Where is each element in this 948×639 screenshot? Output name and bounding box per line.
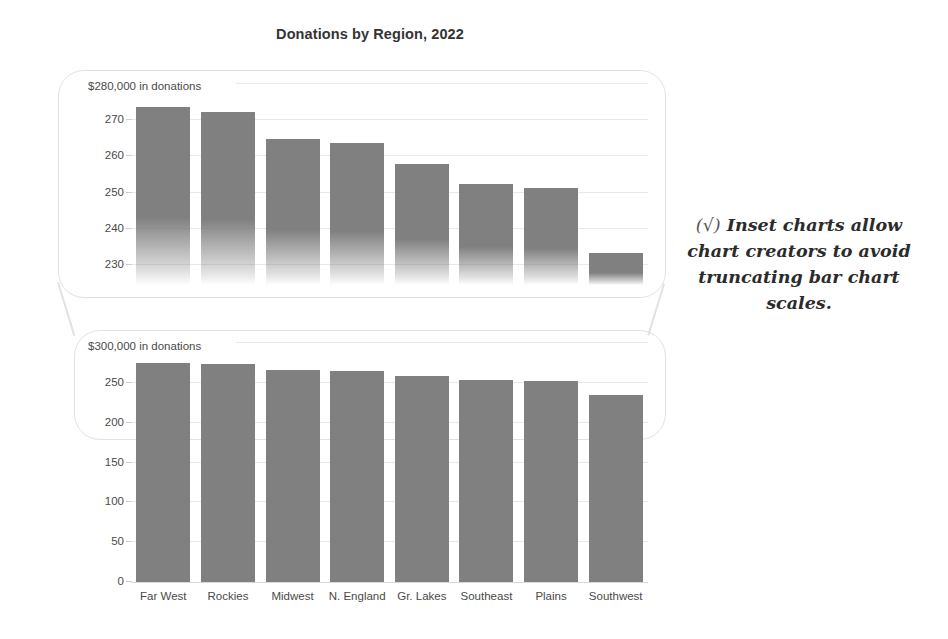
x-axis-label: Midwest (271, 590, 313, 602)
bar (524, 381, 578, 583)
bar (330, 371, 384, 583)
bar (136, 107, 190, 285)
bar (266, 370, 320, 583)
y-tick-label-230: 230 (88, 258, 124, 270)
x-axis-label: Southeast (461, 590, 513, 602)
bottom-axis-note: $300,000 in donations (88, 340, 208, 352)
y-tick-label-150: 150 (88, 456, 124, 468)
full-scale-bar-chart-panel: $300,000 in donations 250200150100500 (88, 340, 648, 583)
checkmark-icon: (√) (696, 215, 721, 235)
bottom-bar-series (131, 340, 648, 583)
bar (201, 112, 255, 285)
bar (459, 380, 513, 583)
x-axis-label: Far West (140, 590, 186, 602)
y-tick-label-50: 50 (88, 535, 124, 547)
y-tick-label-270: 270 (88, 113, 124, 125)
top-axis-note: $280,000 in donations (88, 80, 208, 92)
x-axis-label: Rockies (207, 590, 248, 602)
x-axis-label: N. England (329, 590, 386, 602)
x-axis-category-labels: Far WestRockiesMidwestN. EnglandGr. Lake… (131, 590, 648, 608)
bar (589, 395, 643, 583)
y-tick-label-100: 100 (88, 495, 124, 507)
x-axis-label: Plains (535, 590, 566, 602)
bar (589, 253, 643, 285)
page-title: Donations by Region, 2022 (0, 26, 740, 42)
x-axis-label: Southwest (589, 590, 643, 602)
bar (136, 363, 190, 583)
annotation-callout: (√) Inset charts allow chart creators to… (668, 212, 930, 316)
y-tick-label-250: 250 (88, 376, 124, 388)
bar (524, 188, 578, 285)
bar (395, 376, 449, 583)
y-tick-label-260: 260 (88, 149, 124, 161)
chart-figure: Donations by Region, 2022 $280,000 in do… (0, 0, 948, 639)
bar (459, 184, 513, 285)
bar (330, 143, 384, 285)
annotation-text: Inset charts allow chart creators to avo… (687, 215, 910, 313)
x-axis-label: Gr. Lakes (397, 590, 446, 602)
y-tick-label-250: 250 (88, 186, 124, 198)
top-bar-series (131, 80, 648, 285)
x-axis-baseline (131, 582, 648, 583)
bar (266, 139, 320, 285)
bar (201, 364, 255, 583)
y-tick-label-240: 240 (88, 222, 124, 234)
bar (395, 164, 449, 285)
zoomed-bar-chart-panel: $280,000 in donations 270260250240230 (88, 80, 648, 285)
y-tick-label-0: 0 (88, 575, 124, 587)
y-tick-label-200: 200 (88, 416, 124, 428)
